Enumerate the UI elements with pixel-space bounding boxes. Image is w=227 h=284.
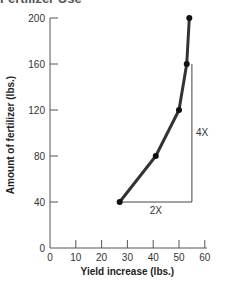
annotation-4x: 4X xyxy=(196,127,209,138)
x-tick-label: 10 xyxy=(70,252,82,263)
data-series xyxy=(117,15,193,205)
y-tick-label: 160 xyxy=(28,59,45,70)
y-tick-label: 200 xyxy=(28,13,45,24)
y-tick-label: 80 xyxy=(34,151,46,162)
y-tick-label: 120 xyxy=(28,105,45,116)
data-point-marker xyxy=(153,153,159,159)
x-tick-label: 0 xyxy=(47,252,53,263)
x-tick-label: 50 xyxy=(173,252,185,263)
data-point-marker xyxy=(176,107,182,113)
fertilizer-yield-chart: 040801201602000102030405060 2X4X Yield i… xyxy=(0,0,227,284)
x-tick-label: 20 xyxy=(96,252,108,263)
data-point-marker xyxy=(184,61,190,67)
axes: 040801201602000102030405060 xyxy=(28,13,210,263)
x-tick-label: 30 xyxy=(122,252,134,263)
x-axis-title: Yield increase (lbs.) xyxy=(81,266,175,277)
y-tick-label: 0 xyxy=(39,243,45,254)
data-point-marker xyxy=(186,15,192,21)
y-tick-label: 40 xyxy=(34,197,46,208)
annotation-2x: 2X xyxy=(150,205,163,216)
y-axis-title: Amount of fertilizer (lbs.) xyxy=(5,76,16,194)
data-point-marker xyxy=(117,199,123,205)
x-tick-label: 60 xyxy=(199,252,211,263)
x-tick-label: 40 xyxy=(148,252,160,263)
